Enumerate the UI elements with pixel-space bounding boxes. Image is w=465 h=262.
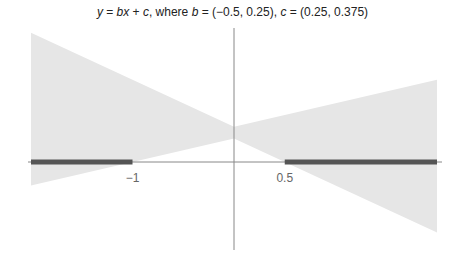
plot-area: −10.5 xyxy=(0,0,465,262)
x-tick-label: −1 xyxy=(126,171,140,185)
x-tick-labels: −10.5 xyxy=(126,171,294,185)
x-tick-label: 0.5 xyxy=(276,171,293,185)
